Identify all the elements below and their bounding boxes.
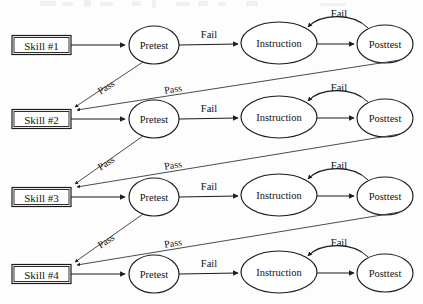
posttest-fail-label-1: Fail xyxy=(331,8,347,19)
instruction-label-4: Instruction xyxy=(256,267,302,278)
skill-label-2: Skill #2 xyxy=(24,114,59,126)
posttest-fail-label-2: Fail xyxy=(331,82,347,93)
skill-label-1: Skill #1 xyxy=(24,40,59,52)
skill-label-4: Skill #4 xyxy=(24,269,59,281)
edge-posttest-pass-1 xyxy=(77,60,400,110)
row-4-group: Skill #4 Pretest Instruction Posttest Fa… xyxy=(12,237,413,294)
pretest-label-4: Pretest xyxy=(140,269,169,280)
instruction-label-1: Instruction xyxy=(256,38,302,49)
posttest-fail-label-4: Fail xyxy=(331,237,347,248)
instruction-label-2: Instruction xyxy=(256,112,302,123)
row-1-group: Skill #1 Pretest Instruction Posttest Fa… xyxy=(12,8,413,111)
pretest-pass-label-1: Pass xyxy=(96,77,117,96)
edge-posttest-pass-2 xyxy=(77,134,400,187)
diagram-graphics: Skill #1 Pretest Instruction Posttest Fa… xyxy=(0,0,423,304)
pretest-label-1: Pretest xyxy=(140,40,169,51)
skill-label-3: Skill #3 xyxy=(24,192,59,204)
pretest-fail-label-3: Fail xyxy=(201,181,217,192)
pretest-pass-label-2: Pass xyxy=(96,153,117,172)
instruction-label-3: Instruction xyxy=(256,190,302,201)
edge-posttest-pass-3 xyxy=(77,212,400,265)
pretest-label-2: Pretest xyxy=(140,114,169,125)
posttest-label-3: Posttest xyxy=(369,191,402,202)
row-3-group: Skill #3 Pretest Instruction Posttest Fa… xyxy=(12,160,413,266)
posttest-label-4: Posttest xyxy=(369,268,402,279)
edge-pretest-fail-3 xyxy=(179,196,238,197)
posttest-fail-label-3: Fail xyxy=(331,160,347,171)
pretest-pass-label-3: Pass xyxy=(96,231,117,250)
posttest-label-2: Posttest xyxy=(369,113,402,124)
edge-pretest-fail-2 xyxy=(179,118,238,119)
pretest-fail-label-1: Fail xyxy=(201,29,217,40)
posttest-label-1: Posttest xyxy=(369,39,402,50)
pretest-label-3: Pretest xyxy=(140,192,169,203)
pretest-fail-label-4: Fail xyxy=(201,258,217,269)
pretest-fail-label-2: Fail xyxy=(201,103,217,114)
diagram-canvas: Skill #1 Pretest Instruction Posttest Fa… xyxy=(0,0,423,304)
edge-pretest-fail-4 xyxy=(179,273,238,274)
edge-pretest-fail-1 xyxy=(179,44,238,45)
